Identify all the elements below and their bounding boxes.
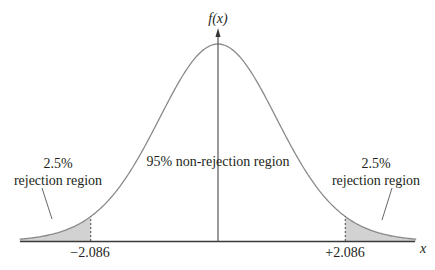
left-leader-line <box>42 188 52 219</box>
right-tick-label: +2.086 <box>325 245 364 260</box>
right-pct-label: 2.5% <box>361 156 391 171</box>
y-axis-arrow-icon <box>216 28 221 37</box>
x-axis-label: x <box>419 241 427 256</box>
center-region-label: 95% non-rejection region <box>146 154 289 169</box>
right-leader-line <box>382 188 392 220</box>
left-tick-label: −2.086 <box>70 245 109 260</box>
right-region-label: rejection region <box>332 173 420 188</box>
left-pct-label: 2.5% <box>43 156 73 171</box>
left-region-label: rejection region <box>14 173 102 188</box>
t-distribution-chart: f(x) x −2.086 +2.086 2.5% rejection regi… <box>0 0 435 270</box>
y-axis-label: f(x) <box>208 11 228 27</box>
